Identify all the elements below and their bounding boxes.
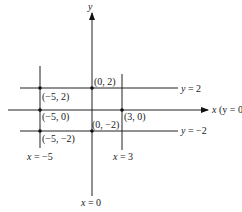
label-y-neg2: y = −2 (180, 125, 207, 136)
label-point-neg5-2: (−5, 2) (42, 91, 69, 103)
label-x-3: x = 3 (112, 151, 133, 162)
label-x-0: x = 0 (80, 197, 101, 208)
coordinate-diagram: y x (y = 0) y = 2 y = −2 x = −5 x = 0 x … (0, 0, 242, 212)
label-point-neg5-neg2: (−5, −2) (42, 133, 75, 145)
x-axis-label: x (y = 0) (211, 104, 242, 116)
label-point-neg5-0: (−5, 0) (42, 111, 69, 123)
label-point-0-neg2: (0, −2) (92, 119, 119, 131)
point-neg5-2 (38, 86, 42, 90)
label-point-3-0: (3, 0) (124, 111, 146, 123)
x-axis-paren: (y = 0) (219, 104, 242, 116)
label-point-0-2: (0, 2) (94, 76, 116, 88)
label-y-2: y = 2 (180, 83, 201, 94)
y-axis-label: y (87, 1, 93, 12)
label-x-neg5: x = −5 (26, 151, 53, 162)
